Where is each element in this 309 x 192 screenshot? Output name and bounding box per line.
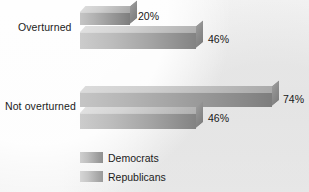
bar-not-overturned-democrats [80,92,272,106]
bar-front-face [80,92,272,107]
legend-swatch-republicans [80,171,103,182]
bar-overturned-republicans [80,32,196,48]
legend-swatch-democrats [80,152,103,163]
bar-end-cap [272,80,279,106]
value-label-not-overturned-democrats: 74% [283,93,304,105]
bar-front-face [80,32,196,49]
bar-not-overturned-republicans [80,113,196,128]
bar-overturned-democrats [80,12,130,24]
bar-front-face [80,113,196,129]
value-label-overturned-democrats: 20% [138,10,159,22]
category-label-not-overturned: Not overturned [5,100,76,112]
chart-canvas: Overturned Not overturned 20% 46% 74% 46… [0,0,309,192]
category-label-overturned: Overturned [18,21,72,33]
legend-label-democrats: Democrats [108,152,159,164]
value-label-overturned-republicans: 46% [208,33,229,45]
bar-end-cap [196,20,203,48]
bar-end-cap [130,0,137,24]
legend-label-republicans: Republicans [108,171,166,183]
value-label-not-overturned-republicans: 46% [208,112,229,124]
bar-front-face [80,12,130,25]
